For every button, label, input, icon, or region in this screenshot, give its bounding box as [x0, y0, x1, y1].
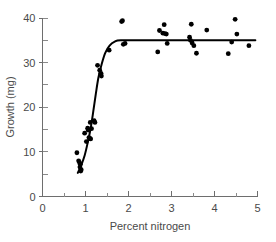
- data-point: [162, 22, 167, 27]
- x-tick-label: 2: [125, 202, 131, 214]
- y-tick-label: 30: [23, 57, 35, 69]
- x-tick-label: 1: [82, 202, 88, 214]
- data-point: [79, 167, 84, 172]
- data-point: [234, 32, 239, 37]
- x-tick-label: 5: [254, 202, 260, 214]
- data-point: [247, 43, 252, 48]
- data-point: [164, 32, 169, 37]
- x-axis-title: Percent nitrogen: [110, 220, 191, 232]
- data-point: [165, 41, 170, 46]
- x-axis-ticks: [64, 191, 258, 197]
- data-point: [226, 51, 231, 56]
- data-point: [89, 126, 94, 131]
- data-point: [99, 74, 104, 79]
- data-point: [204, 28, 209, 33]
- y-axis-tick-labels: 010203040: [23, 12, 35, 203]
- scatter-plot: 010203040 012345 Percent nitrogen Growth…: [0, 0, 276, 242]
- x-tick-label: 4: [211, 202, 217, 214]
- data-point: [78, 162, 83, 167]
- data-point: [120, 18, 125, 23]
- data-point: [194, 51, 199, 56]
- x-tick-label: 0: [39, 202, 45, 214]
- data-point: [189, 22, 194, 27]
- data-point: [191, 43, 196, 48]
- data-point: [107, 48, 112, 53]
- data-point: [88, 137, 93, 142]
- axis-lines: [43, 18, 258, 197]
- data-point: [93, 120, 98, 125]
- y-axis-title: Growth (mg): [4, 76, 16, 137]
- y-tick-label: 0: [29, 191, 35, 203]
- fitted-curve: [78, 40, 256, 173]
- data-point: [75, 150, 80, 155]
- y-tick-label: 10: [23, 146, 35, 158]
- y-tick-label: 40: [23, 12, 35, 24]
- data-point: [95, 63, 100, 68]
- chart-figure: 010203040 012345 Percent nitrogen Growth…: [0, 0, 276, 242]
- data-point: [233, 17, 238, 22]
- data-point: [155, 50, 160, 55]
- y-tick-label: 20: [23, 101, 35, 113]
- x-tick-label: 3: [168, 202, 174, 214]
- data-point: [229, 40, 234, 45]
- x-axis-tick-labels: 012345: [39, 202, 260, 214]
- data-point: [123, 41, 128, 46]
